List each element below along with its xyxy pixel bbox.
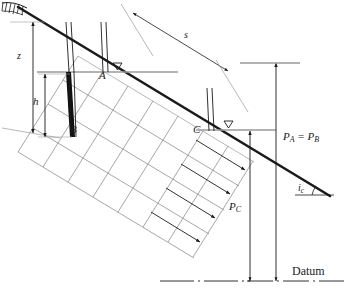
diagram-canvas: A B C z h s PA = PB PC ic Datum — [0, 0, 344, 303]
pc-symbol: P — [229, 200, 236, 212]
label-depth-z: z — [17, 51, 21, 61]
flow-net-grid — [18, 56, 254, 258]
label-seepage-s: s — [184, 30, 188, 40]
label-head-h: h — [33, 96, 39, 107]
dimension-z — [2, 22, 60, 138]
water-table-symbol-c — [224, 121, 233, 128]
label-point-c: C — [193, 124, 200, 135]
piezometer-standpipe-a — [101, 22, 108, 72]
pc-subscript: C — [236, 205, 241, 214]
diagram-svg — [0, 0, 344, 303]
label-pressure-a-equals-b: PA = PB — [283, 131, 319, 144]
ic-subscript: c — [301, 187, 304, 195]
label-point-b: B — [70, 124, 77, 135]
ground-hatching-icon — [2, 2, 27, 15]
label-angle-ic: ic — [298, 183, 304, 195]
label-point-a: A — [99, 70, 106, 81]
pa-symbol: P — [283, 130, 290, 142]
slope-surface-line — [18, 7, 330, 196]
pb-subscript: B — [314, 135, 319, 144]
label-pressure-c: PC — [229, 201, 241, 214]
equals-sign: = — [295, 130, 308, 142]
label-datum: Datum — [292, 265, 325, 277]
dimension-s — [121, 4, 248, 112]
